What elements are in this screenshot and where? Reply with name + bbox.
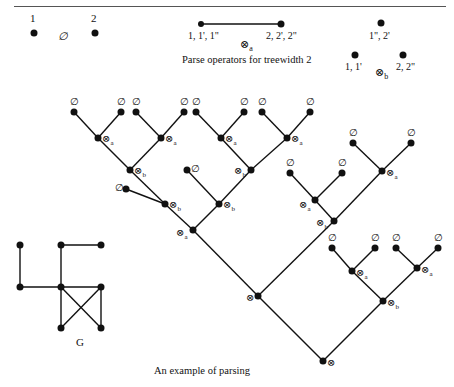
op-b: ⊗b: [387, 297, 399, 311]
op-root-join: ⊗: [246, 292, 254, 303]
join-b-symbol: ⊗b: [375, 66, 388, 81]
join-a-label-left: 1, 1', 1": [188, 30, 219, 41]
join-a-label-right: 2, 2', 2": [266, 30, 297, 41]
op-a: ⊗a: [356, 267, 368, 281]
op-b: ⊗b: [234, 165, 246, 179]
empty-label-2: 2: [91, 12, 97, 24]
leaf-empty: ∅: [240, 96, 249, 107]
header-rule: [14, 6, 446, 7]
leaf-empty: ∅: [180, 96, 189, 107]
op-b: ⊗b: [134, 165, 146, 179]
op-a: ⊗a: [176, 227, 188, 241]
leaf-empty: ∅: [349, 127, 358, 138]
leaf-empty: ∅: [115, 182, 124, 193]
op-root: ⊗: [327, 357, 335, 368]
leaf-empty: ∅: [434, 232, 443, 243]
op-a: ⊗a: [165, 133, 177, 147]
leaf-empty: ∅: [306, 96, 315, 107]
leaf-empty: ∅: [192, 96, 201, 107]
leaf-empty: ∅: [392, 232, 401, 243]
leaf-empty: ∅: [286, 157, 295, 168]
empty-label-1: 1: [30, 12, 36, 24]
op-b: ⊗b: [223, 199, 235, 213]
empty-symbol: ∅: [58, 30, 68, 43]
op-b: ⊗b: [316, 217, 328, 231]
op-a: ⊗a: [421, 264, 433, 278]
join-a-symbol: ⊗a: [240, 38, 253, 53]
leaf-empty: ∅: [338, 157, 347, 168]
op-a: ⊗a: [291, 133, 303, 147]
figure: 1 2 ∅ 1, 1', 1" 2, 2', 2" ⊗a Parse opera…: [0, 0, 454, 387]
leaf-empty: ∅: [117, 96, 126, 107]
leaf-empty: ∅: [132, 96, 141, 107]
op-a: ⊗a: [102, 133, 114, 147]
op-b: ⊗b: [169, 199, 181, 213]
graph-label: G: [76, 336, 84, 348]
leaf-empty: ∅: [371, 232, 380, 243]
tree-caption: An example of parsing: [154, 365, 250, 376]
leaf-empty: ∅: [407, 127, 416, 138]
join-b-label-left: 1, 1': [345, 61, 362, 72]
leaf-empty: ∅: [258, 96, 267, 107]
operators-caption: Parse operators for treewidth 2: [182, 54, 311, 65]
leaf-empty: ∅: [191, 163, 200, 174]
op-a: ⊗a: [299, 199, 311, 213]
leaf-empty: ∅: [70, 96, 79, 107]
leaf-empty: ∅: [328, 232, 337, 243]
join-b-label-top: 1", 2': [369, 30, 390, 41]
op-a: ⊗a: [225, 133, 237, 147]
op-a: ⊗a: [386, 167, 398, 181]
join-b-label-right: 2, 2": [396, 61, 415, 72]
